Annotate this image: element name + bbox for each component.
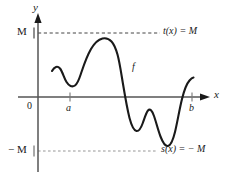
lower-bound-equation-label: s(x) = − M (161, 144, 205, 154)
function-curve-f (52, 38, 194, 146)
origin-label: 0 (27, 101, 32, 111)
tick-label-b: b (189, 103, 194, 113)
lower-bound-value-label: − M (8, 144, 27, 155)
y-axis-label: y (33, 2, 38, 13)
upper-bound-value-label: M (17, 26, 27, 37)
upper-bound-equation-label: t(x) = M (163, 26, 197, 36)
figure-container: y x 0 a b M − M t(x) = M s(x) = − M f (0, 0, 226, 181)
x-axis-arrowhead (200, 93, 210, 100)
y-axis-arrowhead (34, 13, 41, 23)
tick-label-a: a (66, 103, 71, 113)
x-axis-label: x (214, 89, 219, 100)
curve-label-f: f (132, 62, 135, 72)
